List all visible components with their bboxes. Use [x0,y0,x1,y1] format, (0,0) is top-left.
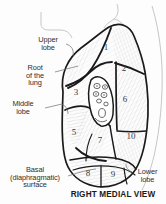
figure-title: RIGHT MEDIAL VIEW [62,190,164,199]
segment-number: 7 [98,135,103,145]
label-upper-lobe: Upper lobe [28,36,68,51]
figure-right-medial-view: 1 2 3 5 6 7 8 9 10 Upper lobe Root of th… [0,0,166,204]
label-lower-lobe: Lower lobe [131,168,164,183]
label-root-of-lung: Root of the lung [17,64,53,87]
segment-number: 9 [111,169,116,179]
label-middle-lobe: Middle lobe [3,100,43,115]
segment-number: 3 [74,87,79,97]
segment-number: 8 [86,168,91,178]
segment-number: 10 [127,131,137,141]
segment-number: 6 [123,94,128,104]
leader-middle-lobe [45,104,62,108]
segment-number: 2 [122,63,127,73]
label-basal-surface: Basal (diaphragmatic) surface [0,166,71,189]
segment-number: 1 [104,42,109,52]
segment-number: 5 [72,127,77,137]
